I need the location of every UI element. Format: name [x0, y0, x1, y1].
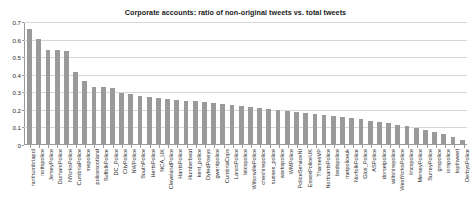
x-axis-label-slot: DyfedPowys [200, 149, 209, 223]
x-axis-tick-slot [376, 145, 385, 148]
bar[interactable] [220, 104, 225, 144]
x-axis-tick-slot [210, 145, 219, 148]
bar[interactable] [36, 39, 41, 144]
bar[interactable] [313, 114, 318, 144]
bar[interactable] [110, 88, 115, 144]
x-axis-label-slot: ThamesVP [311, 149, 320, 223]
x-axis-tick-slot [459, 145, 468, 148]
bar[interactable] [119, 93, 124, 144]
bar[interactable] [405, 126, 410, 144]
bar[interactable] [303, 113, 308, 144]
bar-slot [34, 22, 43, 144]
bar[interactable] [55, 50, 60, 144]
bar[interactable] [156, 98, 161, 144]
bar-slot [356, 22, 365, 144]
bar[interactable] [174, 100, 179, 144]
x-axis-tick-slot [431, 145, 440, 148]
x-axis-label-slot: wiltshirepolice [385, 149, 394, 223]
x-axis-tick-mark [131, 145, 132, 148]
x-axis-tick-slot [413, 145, 422, 148]
x-axis-tick-mark [57, 145, 58, 148]
bar[interactable] [64, 51, 69, 144]
bar[interactable] [92, 87, 97, 144]
x-axis-label-slot: HertsPolice [145, 149, 154, 223]
bar-slot [191, 22, 200, 144]
bar-slot [163, 22, 172, 144]
x-axis-tick-mark [427, 145, 428, 148]
bar[interactable] [46, 50, 51, 144]
x-axis-tick-mark [279, 145, 280, 148]
bar[interactable] [331, 116, 336, 144]
bar[interactable] [211, 103, 216, 144]
bar[interactable] [377, 122, 382, 144]
bar-slot [402, 22, 411, 144]
bar-slot [62, 22, 71, 144]
bar-slot [89, 22, 98, 144]
bar[interactable] [441, 134, 446, 144]
bar[interactable] [285, 111, 290, 144]
y-axis-tick-mark [22, 110, 24, 111]
bar[interactable] [138, 96, 143, 144]
bar-slot [43, 22, 52, 144]
y-axis-tick-label: 0.6 [12, 37, 21, 44]
bar[interactable] [73, 72, 78, 144]
x-axis-tick-slot [182, 145, 191, 148]
bar[interactable] [248, 107, 253, 144]
x-axis-tick-slot [385, 145, 394, 148]
bar[interactable] [184, 101, 189, 144]
plot-area: 0.70.60.50.40.30.20.10 [24, 22, 467, 145]
bar[interactable] [147, 97, 152, 144]
x-axis-label-slot: DerbysPolice [459, 149, 468, 223]
bar-slot [108, 22, 117, 144]
bar-slot [366, 22, 375, 144]
x-axis-label-slot: topthweet [450, 149, 459, 223]
bar[interactable] [359, 119, 364, 144]
bar[interactable] [294, 112, 299, 145]
bar[interactable] [193, 101, 198, 144]
bar[interactable] [239, 106, 244, 144]
bar[interactable] [82, 81, 87, 144]
x-axis-label-slot: Humberbeat [182, 149, 191, 223]
y-axis-tick-mark [22, 75, 24, 76]
bar[interactable] [368, 121, 373, 144]
x-axis-tick-slot [154, 145, 163, 148]
bar[interactable] [451, 137, 456, 144]
x-axis-tick-slot [422, 145, 431, 148]
x-axis-tick-mark [39, 145, 40, 148]
x-axis-label-slot: NCA_UK [154, 149, 163, 223]
x-axis-label-slot: kent_police [191, 149, 200, 223]
x-axis-tick-slot [34, 145, 43, 148]
bar[interactable] [386, 123, 391, 144]
bar[interactable] [340, 117, 345, 144]
bar-slot [412, 22, 421, 144]
y-axis-tick-mark [22, 92, 24, 93]
x-axis-label-slot: leicspolice [237, 149, 246, 223]
bar[interactable] [257, 108, 262, 144]
bar-slot [347, 22, 356, 144]
x-axis-tick-mark [445, 145, 446, 148]
x-axis-tick-slot [90, 145, 99, 148]
bar[interactable] [349, 118, 354, 144]
x-axis-tick-mark [94, 145, 95, 148]
x-axis-tick-slot [321, 145, 330, 148]
bar[interactable] [423, 130, 428, 144]
bar[interactable] [266, 109, 271, 144]
bar[interactable] [27, 29, 32, 144]
bar[interactable] [202, 102, 207, 144]
bar[interactable] [395, 125, 400, 144]
bar[interactable] [414, 128, 419, 144]
bar[interactable] [322, 115, 327, 144]
x-axis-label-slot: EssexPoliceUK [302, 149, 311, 223]
bar-slot [458, 22, 467, 144]
bar[interactable] [276, 110, 281, 144]
x-axis-tick-mark [436, 145, 437, 148]
bar[interactable] [128, 94, 133, 144]
bar[interactable] [165, 99, 170, 144]
x-axis-tick-slot [404, 145, 413, 148]
x-axis-tick-marks [25, 145, 468, 148]
bar[interactable] [460, 140, 465, 144]
bar[interactable] [101, 87, 106, 144]
bar[interactable] [230, 105, 235, 144]
x-axis-tick-slot [265, 145, 274, 148]
bar[interactable] [432, 132, 437, 144]
